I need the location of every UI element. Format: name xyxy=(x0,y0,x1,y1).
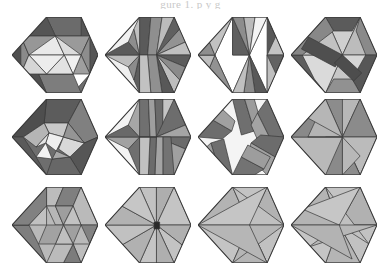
hexagon-8-svg xyxy=(291,99,377,175)
hexagon-11-svg xyxy=(198,187,284,263)
hexagon-12 xyxy=(291,187,377,263)
hexagon-3 xyxy=(198,17,284,93)
hexagon-4 xyxy=(291,17,377,93)
hexagon-12-svg xyxy=(291,187,377,263)
hexagon-10-faces xyxy=(105,187,191,263)
hexagon-9 xyxy=(12,187,98,263)
hexagon-7-svg xyxy=(198,99,284,175)
hexagon-4-svg xyxy=(291,17,377,93)
hexagon-1-faces xyxy=(12,17,98,93)
hexagon-8 xyxy=(291,99,377,175)
figure-sheet: gure 1. p y g xyxy=(0,0,381,271)
hexagon-5 xyxy=(12,99,98,175)
hexagon-7 xyxy=(198,99,284,175)
hexagon-10-svg xyxy=(105,187,191,263)
hexagon-3-faces xyxy=(198,17,284,93)
hexagon-6-faces xyxy=(105,99,191,175)
hexagon-8-faces xyxy=(291,99,377,175)
hexagon-9-svg xyxy=(12,187,98,263)
hexagon-6 xyxy=(105,99,191,175)
hexagon-9-faces xyxy=(12,187,98,263)
hexagon-11 xyxy=(198,187,284,263)
hexagon-3-svg xyxy=(198,17,284,93)
hexagon-10 xyxy=(105,187,191,263)
hexagon-2 xyxy=(105,17,191,93)
hexagon-6-face-13 xyxy=(140,137,150,175)
hexagon-1 xyxy=(12,17,98,93)
hexagon-7-faces xyxy=(198,99,284,175)
hexagon-12-faces xyxy=(291,187,377,263)
hexagon-5-faces xyxy=(12,99,98,175)
hexagon-2-faces xyxy=(105,17,191,93)
hexagon-4-faces xyxy=(291,17,377,93)
hexagon-11-faces xyxy=(198,187,284,263)
hexagon-2-svg xyxy=(105,17,191,93)
hexagon-1-svg xyxy=(12,17,98,93)
hexagon-10-face-13 xyxy=(154,222,160,229)
hexagon-grid xyxy=(0,9,381,271)
figure-top-caption: gure 1. p y g xyxy=(0,0,381,9)
hexagon-5-svg xyxy=(12,99,98,175)
hexagon-6-svg xyxy=(105,99,191,175)
